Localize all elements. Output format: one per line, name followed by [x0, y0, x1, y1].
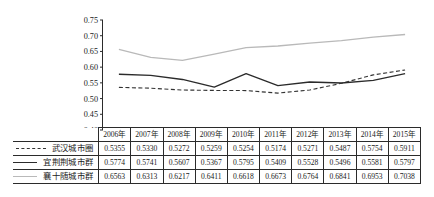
table-cell: 0.5607: [163, 156, 195, 170]
table-cell: 0.5581: [356, 156, 388, 170]
y-tick-label: 0.75: [84, 16, 98, 25]
table-row: 武汉城市圈0.53550.53300.52720.52590.52540.517…: [13, 142, 421, 156]
table-cell: 0.5911: [388, 142, 420, 156]
table-cell: 0.5271: [292, 142, 324, 156]
table-header-year-2006年: 2006年: [99, 128, 131, 142]
table-cell: 0.5795: [227, 156, 259, 170]
table-cell: 0.5367: [195, 156, 227, 170]
chart-figure: 0.750.700.650.600.550.500.450.40 2006年20…: [0, 0, 434, 197]
table-cell: 0.6953: [356, 170, 388, 184]
table-header-year-2014年: 2014年: [356, 128, 388, 142]
table-cell: 0.6411: [195, 170, 227, 184]
table-cell: 0.5330: [131, 142, 163, 156]
series-line-宜荆荆城市群: [119, 74, 405, 88]
y-tick-label: 0.45: [84, 110, 98, 119]
legend-swatch-icon: [16, 148, 46, 149]
legend-cell-1: 宜荆荆城市群: [13, 156, 99, 170]
legend-cell-0: 武汉城市圈: [13, 142, 99, 156]
table-header-year-2007年: 2007年: [131, 128, 163, 142]
series-line-襄十随城市群: [119, 35, 405, 61]
y-tick-label: 0.70: [84, 32, 98, 41]
table-cell: 0.5409: [260, 156, 292, 170]
table-cell: 0.6841: [324, 170, 356, 184]
table-cell: 0.5174: [260, 142, 292, 156]
table-cell: 0.6618: [227, 170, 259, 184]
table-cell: 0.5272: [163, 142, 195, 156]
table-cell: 0.6764: [292, 170, 324, 184]
series-lines-group: [119, 35, 405, 94]
table-header-year-2009年: 2009年: [195, 128, 227, 142]
legend-label: 武汉城市圈: [52, 142, 94, 155]
line-chart-plot: 0.750.700.650.600.550.500.450.40: [0, 0, 434, 140]
table-header-row: 2006年2007年2008年2009年2010年2011年2012年2013年…: [13, 128, 421, 142]
table-header-year-2010年: 2010年: [227, 128, 259, 142]
table-row: 襄十随城市群0.65630.63130.62170.64110.66180.66…: [13, 170, 421, 184]
legend-cell-2: 襄十随城市群: [13, 170, 99, 184]
y-tick-label: 0.50: [84, 95, 98, 104]
legend-swatch-icon: [13, 176, 37, 177]
table-cell: 0.5254: [227, 142, 259, 156]
table-header-year-2015年: 2015年: [388, 128, 420, 142]
table-row: 宜荆荆城市群0.57740.57410.56070.53670.57950.54…: [13, 156, 421, 170]
table-cell: 0.5355: [99, 142, 131, 156]
table-cell: 0.6313: [131, 170, 163, 184]
table-cell: 0.5528: [292, 156, 324, 170]
legend-label: 宜荆荆城市群: [43, 156, 93, 169]
y-axis-tick-labels: 0.750.700.650.600.550.500.450.40: [84, 16, 98, 135]
table-header-year-2008年: 2008年: [163, 128, 195, 142]
table-header-year-2013年: 2013年: [324, 128, 356, 142]
table-cell: 0.6563: [99, 170, 131, 184]
table-cell: 0.5741: [131, 156, 163, 170]
table-cell: 0.5754: [356, 142, 388, 156]
table-body: 武汉城市圈0.53550.53300.52720.52590.52540.517…: [13, 142, 421, 184]
table-header-year-2011年: 2011年: [260, 128, 292, 142]
table-corner-cell: [13, 128, 99, 142]
table-cell: 0.7038: [388, 170, 420, 184]
table-cell: 0.5259: [195, 142, 227, 156]
table-header-year-2012年: 2012年: [292, 128, 324, 142]
table-cell: 0.6673: [260, 170, 292, 184]
data-table: 2006年2007年2008年2009年2010年2011年2012年2013年…: [13, 127, 421, 184]
table-cell: 0.6217: [163, 170, 195, 184]
legend-label: 襄十随城市群: [43, 170, 93, 183]
chart-svg: 0.750.700.650.600.550.500.450.40: [0, 0, 434, 140]
table-cell: 0.5487: [324, 142, 356, 156]
table-cell: 0.5774: [99, 156, 131, 170]
legend-swatch-icon: [13, 162, 37, 163]
y-tick-label: 0.60: [84, 63, 98, 72]
y-tick-label: 0.65: [84, 47, 98, 56]
y-tick-label: 0.55: [84, 79, 98, 88]
table-cell: 0.5797: [388, 156, 420, 170]
table-cell: 0.5496: [324, 156, 356, 170]
